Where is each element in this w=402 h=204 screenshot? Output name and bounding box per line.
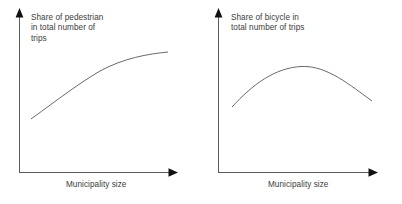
pedestrian-share-curve	[31, 52, 168, 119]
y-axis-arrow-icon	[16, 8, 24, 18]
chart-panel-pedestrian: Share of pedestrian in total number of t…	[0, 0, 201, 204]
y-axis-arrow-icon	[215, 8, 223, 18]
x-axis-arrow-icon	[169, 168, 179, 176]
x-axis-title-bicycle: Municipality size	[268, 180, 328, 190]
two-panel-line-chart-figure: Share of pedestrian in total number of t…	[0, 0, 402, 204]
chart-panel-bicycle: Share of bicycle in total number of trip…	[201, 0, 402, 204]
y-axis-title-bicycle: Share of bicycle in total number of trip…	[231, 13, 304, 34]
y-axis-title-pedestrian: Share of pedestrian in total number of t…	[31, 13, 103, 44]
x-axis-arrow-icon	[369, 168, 379, 176]
bicycle-share-curve	[232, 66, 372, 107]
x-axis-title-pedestrian: Municipality size	[66, 180, 126, 190]
